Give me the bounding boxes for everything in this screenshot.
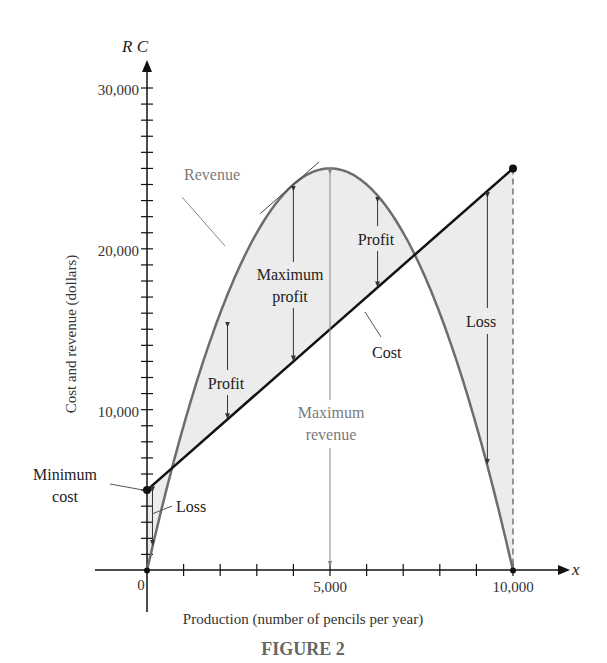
cost-label: Cost bbox=[372, 344, 402, 361]
y-tick-label-20000: 20,000 bbox=[98, 243, 139, 259]
x-tick-label-5000: 5,000 bbox=[313, 579, 347, 595]
x-axis-label: Production (number of pencils per year) bbox=[183, 611, 423, 628]
max-revenue-label-line1: Maximum bbox=[298, 404, 365, 421]
max-profit-label-line1: Maximum bbox=[257, 266, 324, 283]
loss-left-label: Loss bbox=[176, 498, 206, 515]
y-axis-symbol: R C bbox=[121, 37, 149, 56]
cost-leader bbox=[365, 312, 381, 337]
min-cost-label-line1: Minimum bbox=[33, 466, 98, 483]
min-cost-leader bbox=[110, 484, 143, 490]
x-10000-point bbox=[510, 568, 516, 574]
max-revenue-label-line2: revenue bbox=[306, 426, 357, 443]
max-profit-label-line2: profit bbox=[272, 288, 308, 306]
loss-right-label: Loss bbox=[466, 313, 496, 330]
chart-canvas: R C x 30,000 20,000 10,000 0 5,000 10,00… bbox=[0, 0, 607, 663]
y-tick-label-10000: 10,000 bbox=[98, 404, 139, 420]
y-axis-arrow-icon bbox=[142, 60, 152, 72]
revenue-label: Revenue bbox=[184, 166, 240, 183]
end-point bbox=[509, 164, 517, 172]
figure-caption: FIGURE 2 bbox=[261, 639, 345, 659]
min-cost-label-line2: cost bbox=[52, 488, 78, 505]
x-axis-arrow-icon bbox=[558, 565, 570, 575]
minimum-cost-point bbox=[143, 486, 151, 494]
x-tick-label-0: 0 bbox=[137, 577, 145, 593]
y-tick-label-30000: 30,000 bbox=[98, 82, 139, 98]
profit-right-label: Profit bbox=[358, 231, 395, 248]
x-tick-label-10000: 10,000 bbox=[492, 579, 533, 595]
profit-left-label: Profit bbox=[208, 375, 245, 392]
revenue-leader bbox=[182, 197, 225, 246]
x-axis-symbol: x bbox=[571, 560, 580, 579]
y-axis-label: Cost and revenue (dollars) bbox=[63, 255, 80, 414]
origin-point bbox=[144, 568, 150, 574]
